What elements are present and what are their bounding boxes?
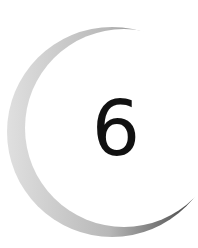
chapter-badge: 6 — [0, 0, 198, 248]
chapter-number: 6 — [0, 84, 198, 174]
